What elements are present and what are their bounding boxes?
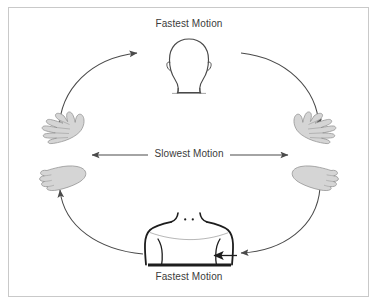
right-hand-figure [294,112,336,144]
left-hand-figure [42,112,84,144]
label-fastest-motion-top: Fastest Motion [0,18,378,30]
left-foot-figure [40,166,86,191]
torso-figure [145,213,237,265]
diagram-canvas: Fastest Motion Slowest Motion Fastest Mo… [0,0,378,306]
head-figure [167,39,211,94]
arc-right-foot-to-torso [241,188,320,253]
label-slowest-motion: Slowest Motion [148,148,229,159]
arc-torso-to-left-foot [60,190,143,254]
right-foot-figure [292,166,338,191]
label-slowest-motion-wrapper: Slowest Motion [0,148,378,160]
label-fastest-motion-bottom: Fastest Motion [0,271,378,283]
